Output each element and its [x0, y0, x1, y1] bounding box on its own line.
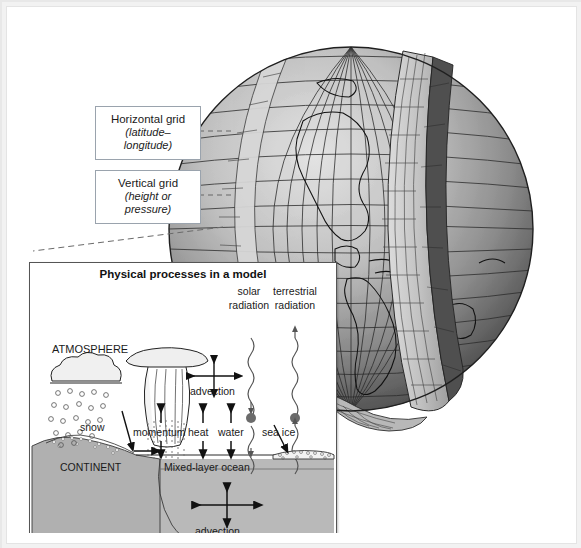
figure-page: Horizontal grid (latitude–longitude) Ver…	[17, 17, 566, 533]
callout-vertical-grid: Vertical grid (height or pressure)	[95, 170, 201, 224]
callout-horizontal-grid-line2: (latitude–longitude)	[104, 126, 192, 153]
inset-physical-processes: Physical processes in a model	[29, 262, 337, 533]
callout-horizontal-grid-line1: Horizontal grid	[104, 112, 192, 126]
continent-body	[32, 435, 160, 533]
callout-horizontal-grid: Horizontal grid (latitude–longitude)	[95, 106, 201, 160]
continent-label: CONTINENT	[60, 461, 121, 473]
sea-ice-icon	[273, 451, 334, 460]
terrestrial-radiation-label-line1: terrestrial	[260, 285, 330, 297]
cloud-icon	[50, 352, 122, 383]
figure-canvas: Horizontal grid (latitude–longitude) Ver…	[0, 0, 581, 548]
advection-atmosphere-label: advection	[190, 385, 235, 397]
callout-vertical-grid-line1: Vertical grid	[104, 176, 192, 190]
callout-vertical-grid-line2: (height or pressure)	[104, 190, 192, 217]
sea-ice-label: sea ice	[262, 426, 295, 438]
terrestrial-radiation-label-line2: radiation	[262, 299, 328, 311]
snow-pointer-arrow	[122, 411, 132, 447]
momentum-label: momentum	[133, 426, 186, 438]
figure-frame: Horizontal grid (latitude–longitude) Ver…	[6, 6, 577, 544]
mixed-layer-ocean-label: Mixed-layer ocean	[164, 461, 250, 473]
water-label: water	[218, 426, 244, 438]
snow-label: snow	[80, 421, 105, 433]
atmosphere-label: ATMOSPHERE	[52, 343, 128, 355]
advection-ocean-label: advection	[195, 525, 240, 533]
ocean-label: OCEAN	[276, 531, 313, 533]
heat-label: heat	[188, 426, 208, 438]
solar-surface-dot	[246, 413, 256, 423]
solar-radiation-ray	[246, 338, 256, 474]
